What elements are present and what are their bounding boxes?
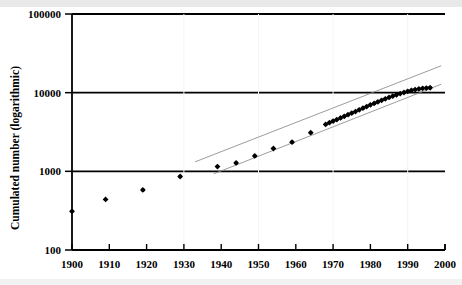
- data-point-core: [235, 161, 238, 164]
- data-point-core: [350, 112, 353, 115]
- data-point-core: [425, 87, 428, 90]
- scan-artifact-top: [0, 0, 462, 7]
- data-point-core: [391, 95, 394, 98]
- trendline-lower-trend: [214, 84, 442, 174]
- data-point-core: [410, 89, 413, 92]
- data-point-core: [332, 120, 335, 123]
- data-point-core: [272, 147, 275, 150]
- data-point-core: [417, 87, 420, 90]
- x-tick-label-1990: 1990: [397, 258, 420, 270]
- y-tick-labels: 100100010000100000: [28, 8, 62, 256]
- x-tick-label-1960: 1960: [285, 258, 308, 270]
- gridlines: [72, 14, 445, 250]
- data-point-core: [141, 188, 144, 191]
- data-point-core: [358, 108, 361, 111]
- data-point-core: [380, 99, 383, 102]
- x-tick-label-1930: 1930: [173, 258, 196, 270]
- data-point-core: [253, 154, 256, 157]
- data-point-core: [384, 97, 387, 100]
- x-tick-label-1900: 1900: [61, 258, 84, 270]
- x-tick-label-1920: 1920: [136, 258, 159, 270]
- y-tick-label-10000: 10000: [34, 87, 62, 99]
- x-tick-label-1980: 1980: [359, 258, 382, 270]
- chart-figure: Cumulated number (logarithmic) 190019101…: [0, 0, 462, 285]
- data-point-core: [328, 121, 331, 124]
- x-tick-label-2000: 2000: [434, 258, 457, 270]
- data-point-core: [339, 116, 342, 119]
- data-point-core: [369, 103, 372, 106]
- data-point-core: [347, 113, 350, 116]
- scan-artifact-bottom: [0, 279, 462, 285]
- data-point-core: [414, 88, 417, 91]
- scatter-plot: Cumulated number (logarithmic) 190019101…: [0, 0, 462, 285]
- data-point-core: [179, 175, 182, 178]
- data-point-core: [291, 141, 294, 144]
- trendline-upper-trend: [195, 66, 441, 162]
- data-point-core: [71, 210, 74, 213]
- data-points: [69, 85, 433, 214]
- y-axis-title: Cumulated number (logarithmic): [9, 66, 22, 230]
- data-point-core: [365, 105, 368, 108]
- data-point-core: [421, 87, 424, 90]
- data-point-core: [335, 118, 338, 121]
- x-tick-label-1910: 1910: [98, 258, 121, 270]
- x-tick-labels: 1900191019201930194019501960197019801990…: [61, 258, 457, 270]
- data-point-core: [324, 123, 327, 126]
- y-tick-label-100: 100: [45, 244, 62, 256]
- data-point-core: [429, 86, 432, 89]
- data-point-core: [354, 110, 357, 113]
- x-tick-label-1970: 1970: [322, 258, 345, 270]
- data-point-core: [376, 100, 379, 103]
- data-point-core: [104, 198, 107, 201]
- data-point-core: [343, 115, 346, 118]
- x-tick-label-1940: 1940: [210, 258, 233, 270]
- data-point-core: [373, 102, 376, 105]
- y-tick-label-100000: 100000: [28, 8, 62, 20]
- data-point-core: [388, 96, 391, 99]
- trend-lines: [195, 66, 441, 174]
- data-point-core: [361, 107, 364, 110]
- x-tick-label-1950: 1950: [248, 258, 271, 270]
- y-axis-ticks: [65, 14, 72, 250]
- y-tick-label-1000: 1000: [39, 165, 62, 177]
- data-point-core: [309, 131, 312, 134]
- data-point-core: [216, 165, 219, 168]
